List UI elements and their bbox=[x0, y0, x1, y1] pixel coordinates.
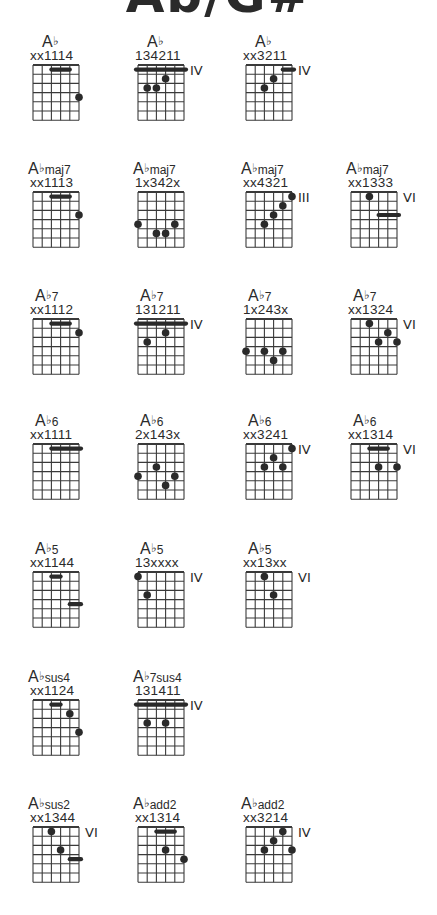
fingering-label: xx1344 bbox=[30, 810, 75, 825]
fingering-label: xx1113 bbox=[30, 175, 73, 190]
finger-dot bbox=[261, 220, 269, 228]
fret-position-label: VI bbox=[403, 317, 416, 332]
flat-sign: ♭ bbox=[252, 161, 258, 175]
fret-position-label: IV bbox=[190, 698, 203, 713]
finger-dot bbox=[153, 463, 161, 471]
finger-dot bbox=[270, 75, 278, 83]
page-title: Ab/G# bbox=[0, 0, 437, 24]
fretboard-grid bbox=[30, 699, 106, 758]
flat-sign: ♭ bbox=[144, 161, 150, 175]
fingering-label: xx1314 bbox=[348, 427, 393, 442]
fret-position-label: IV bbox=[298, 63, 311, 78]
finger-dot bbox=[270, 837, 278, 845]
flat-sign: ♭ bbox=[151, 288, 157, 302]
flat-sign: ♭ bbox=[39, 669, 45, 683]
finger-dot bbox=[162, 482, 170, 490]
flat-sign: ♭ bbox=[259, 288, 265, 302]
finger-dot bbox=[75, 329, 83, 337]
finger-dot bbox=[261, 573, 269, 581]
fingering-label: 13xxxx bbox=[135, 555, 179, 570]
finger-dot bbox=[270, 454, 278, 462]
finger-dot bbox=[279, 463, 287, 471]
fretboard-grid bbox=[243, 318, 319, 377]
fretboard-grid bbox=[135, 826, 211, 885]
fretboard-grid: IV bbox=[135, 699, 211, 758]
flat-sign: ♭ bbox=[151, 413, 157, 427]
finger-dot bbox=[279, 202, 287, 210]
finger-dot bbox=[143, 84, 151, 92]
fretboard-grid bbox=[30, 64, 106, 123]
fretboard-grid: IV bbox=[243, 443, 319, 502]
fretboard-grid: VI bbox=[348, 443, 424, 502]
finger-dot bbox=[162, 719, 170, 727]
finger-dot bbox=[75, 211, 83, 219]
fingering-label: xx1333 bbox=[348, 175, 393, 190]
fingering-label: 2x143x bbox=[135, 427, 180, 442]
fretboard-grid bbox=[30, 191, 106, 250]
finger-dot bbox=[48, 828, 56, 836]
finger-dot bbox=[143, 719, 151, 727]
fretboard-grid: VI bbox=[243, 571, 319, 630]
finger-dot bbox=[393, 338, 401, 346]
finger-dot bbox=[270, 591, 278, 599]
finger-dot bbox=[375, 338, 383, 346]
fingering-label: 1x342x bbox=[135, 175, 180, 190]
finger-dot bbox=[375, 463, 383, 471]
finger-dot bbox=[279, 828, 287, 836]
finger-dot bbox=[366, 320, 374, 328]
fretboard-grid bbox=[30, 318, 106, 377]
finger-dot bbox=[162, 230, 170, 238]
fingering-label: xx1314 bbox=[135, 810, 180, 825]
fingering-label: xx1112 bbox=[30, 302, 73, 317]
fret-position-label: VI bbox=[298, 570, 311, 585]
finger-dot bbox=[134, 573, 142, 581]
fretboard-grid: IV bbox=[135, 64, 211, 123]
fingering-label: 1x243x bbox=[243, 302, 288, 317]
fret-position-label: VI bbox=[403, 190, 416, 205]
fretboard-grid: IV bbox=[243, 826, 319, 885]
finger-dot bbox=[75, 728, 83, 736]
finger-dot bbox=[171, 472, 179, 480]
fret-position-label: IV bbox=[298, 442, 311, 457]
finger-dot bbox=[75, 93, 83, 101]
finger-dot bbox=[134, 472, 142, 480]
fingering-label: 131211 bbox=[135, 302, 181, 317]
fingering-label: xx1144 bbox=[30, 555, 74, 570]
finger-dot bbox=[171, 220, 179, 228]
fingering-label: xx1324 bbox=[348, 302, 393, 317]
finger-dot bbox=[180, 855, 188, 863]
flat-sign: ♭ bbox=[46, 288, 52, 302]
flat-sign: ♭ bbox=[259, 413, 265, 427]
finger-dot bbox=[288, 193, 296, 201]
fretboard-grid: III bbox=[243, 191, 319, 250]
fingering-label: 134211 bbox=[135, 48, 181, 63]
finger-dot bbox=[261, 846, 269, 854]
fretboard-grid bbox=[135, 191, 211, 250]
fret-position-label: VI bbox=[403, 442, 416, 457]
fretboard-grid: VI bbox=[348, 191, 424, 250]
fret-position-label: IV bbox=[190, 63, 203, 78]
finger-dot bbox=[366, 193, 374, 201]
flat-sign: ♭ bbox=[46, 413, 52, 427]
flat-sign: ♭ bbox=[39, 161, 45, 175]
fingering-label: xx4321 bbox=[243, 175, 288, 190]
fingering-label: xx1124 bbox=[30, 683, 74, 698]
flat-sign: ♭ bbox=[46, 541, 52, 555]
fret-position-label: IV bbox=[190, 317, 203, 332]
finger-dot bbox=[57, 846, 65, 854]
fingering-label: xx3214 bbox=[243, 810, 288, 825]
finger-dot bbox=[261, 347, 269, 355]
finger-dot bbox=[153, 230, 161, 238]
finger-dot bbox=[162, 75, 170, 83]
finger-dot bbox=[143, 591, 151, 599]
fret-position-label: III bbox=[298, 190, 310, 205]
flat-sign: ♭ bbox=[144, 796, 150, 810]
fret-position-label: IV bbox=[298, 825, 311, 840]
flat-sign: ♭ bbox=[252, 796, 258, 810]
finger-dot bbox=[242, 347, 250, 355]
fretboard-grid: IV bbox=[135, 571, 211, 630]
fretboard-grid bbox=[30, 443, 106, 502]
fingering-label: xx3241 bbox=[243, 427, 288, 442]
finger-dot bbox=[261, 463, 269, 471]
fretboard-grid bbox=[30, 571, 106, 630]
